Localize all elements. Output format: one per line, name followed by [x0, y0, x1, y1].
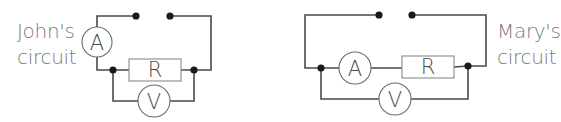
mary-switch-left-terminal: [375, 11, 382, 18]
mary-ammeter-symbol: A: [348, 57, 362, 81]
mary-resistor: R: [402, 55, 454, 79]
john-switch-right-terminal: [166, 12, 173, 19]
john-top-left-wire: [97, 16, 136, 27]
john-junction-left: [109, 66, 116, 73]
mary-junction-right: [464, 62, 471, 69]
mary-ammeter: A: [339, 52, 371, 84]
john-ammeter-symbol: A: [90, 31, 104, 55]
mary-voltmeter: V: [379, 83, 411, 115]
john-ammeter: A: [82, 27, 112, 57]
john-voltmeter-symbol: V: [147, 90, 161, 114]
mary-circuit: A R V: [305, 11, 486, 115]
mary-voltmeter-symbol: V: [388, 88, 402, 112]
john-voltmeter: V: [138, 85, 170, 117]
mary-junction-left: [317, 64, 324, 71]
john-switch-left-terminal: [132, 12, 139, 19]
mary-switch-right-terminal: [408, 11, 415, 18]
john-junction-right: [190, 66, 197, 73]
john-circuit: A R V: [82, 12, 211, 117]
john-resistor: R: [129, 58, 181, 82]
mary-resistor-symbol: R: [421, 55, 436, 79]
john-resistor-symbol: R: [148, 58, 163, 82]
